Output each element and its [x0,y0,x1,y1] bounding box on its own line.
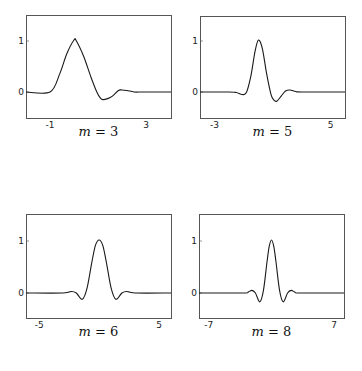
panel-caption: m = 8 [199,324,344,339]
y-tick-label: 1 [191,236,197,246]
plot-frame [200,215,345,319]
plot-panel-4: 01-77 [0,0,362,371]
y-tick-label: 0 [191,288,197,298]
data-line [199,240,344,302]
